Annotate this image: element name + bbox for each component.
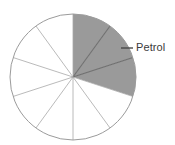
- callout-label-petrol: Petrol: [136, 41, 165, 54]
- pie-chart-svg: [0, 0, 175, 145]
- pie-chart-figure: Petrol: [0, 0, 175, 145]
